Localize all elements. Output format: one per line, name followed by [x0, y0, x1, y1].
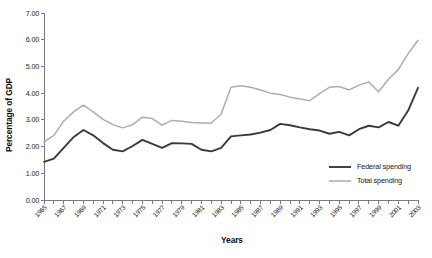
x-axis-tick-label: 1971 — [92, 203, 107, 218]
y-axis-tick-label: 6.00 — [26, 35, 39, 44]
x-axis: 1965196719691971197319751977197919811983… — [33, 200, 422, 219]
x-axis-tick-label: 2001 — [387, 203, 402, 218]
x-axis-tick-label: 1967 — [53, 203, 68, 218]
series-line-federal-spending — [44, 88, 418, 162]
x-axis-tick-label: 1993 — [309, 203, 324, 218]
chart-series-group — [44, 40, 418, 162]
x-axis-title: Years — [221, 235, 243, 245]
y-axis-tick-label: 3.00 — [26, 115, 39, 124]
legend-label-federal-spending: Federal spending — [357, 162, 411, 171]
y-axis: 0.001.002.003.004.005.006.007.00 — [26, 9, 44, 205]
x-axis-tick-label: 1973 — [112, 203, 127, 218]
y-axis-tick-label: 2.00 — [26, 142, 39, 151]
x-axis-tick-label: 1965 — [33, 203, 48, 218]
x-axis-tick-label: 1989 — [269, 203, 284, 218]
series-line-total-spending — [44, 40, 418, 142]
line-chart: 0.001.002.003.004.005.006.007.00 1965196… — [0, 0, 432, 258]
x-axis-tick-label: 1975 — [132, 203, 147, 218]
x-axis-tick-label: 1969 — [73, 203, 88, 218]
chart-container: 0.001.002.003.004.005.006.007.00 1965196… — [0, 0, 432, 258]
x-axis-tick-label: 1981 — [191, 203, 206, 218]
y-axis-tick-label: 5.00 — [26, 62, 39, 71]
x-axis-tick-label: 1977 — [151, 203, 166, 218]
x-axis-tick-label: 1999 — [368, 203, 383, 218]
x-axis-tick-label: 2003 — [407, 203, 422, 218]
chart-legend: Federal spendingTotal spending — [329, 162, 411, 185]
y-axis-title: Percentage of GDP — [4, 77, 14, 152]
x-axis-tick-label: 1983 — [210, 203, 225, 218]
y-axis-tick-label: 4.00 — [26, 89, 39, 98]
y-axis-tick-label: 0.00 — [26, 196, 39, 205]
x-axis-tick-label: 1997 — [348, 203, 363, 218]
x-axis-tick-label: 1987 — [250, 203, 265, 218]
x-axis-tick-label: 1979 — [171, 203, 186, 218]
legend-label-total-spending: Total spending — [357, 176, 402, 185]
y-axis-tick-label: 7.00 — [26, 9, 39, 18]
x-axis-tick-label: 1985 — [230, 203, 245, 218]
x-axis-tick-label: 1995 — [328, 203, 343, 218]
y-axis-tick-label: 1.00 — [26, 169, 39, 178]
x-axis-tick-label: 1991 — [289, 203, 304, 218]
